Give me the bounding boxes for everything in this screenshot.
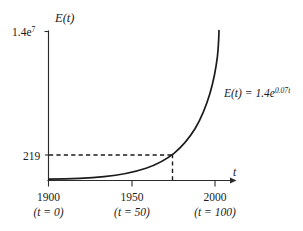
- y-axis-marked-value: 219: [23, 150, 41, 162]
- x-tick-year-2000: 2000: [204, 191, 227, 203]
- curve-equation-text: E(t) = 1.4e0.07t: [223, 86, 291, 101]
- axes-group: [48, 31, 237, 183]
- exponential-curve: [49, 31, 219, 180]
- x-tick-label-1900: 1900 (t = 0): [33, 191, 63, 219]
- x-tick-tvalue-1900: (t = 0): [33, 206, 63, 219]
- exponential-growth-figure: E(t) t 1.4e7 219 1900 (t = 0) 19: [0, 0, 303, 231]
- y-axis-top-value: 1.4e7: [12, 25, 35, 39]
- x-axis-label: t: [233, 166, 237, 178]
- curve-equation-annotation: E(t) = 1.4e0.07t: [223, 86, 291, 101]
- plot-canvas: E(t) t 1.4e7 219 1900 (t = 0) 19: [0, 0, 303, 231]
- y-axis-ticks: [45, 32, 49, 156]
- x-tick-year-1900: 1900: [37, 191, 60, 203]
- x-tick-year-1950: 1950: [121, 191, 144, 203]
- curve-equation-exponent: 0.07t: [275, 86, 291, 95]
- x-tick-label-1950: 1950 (t = 50): [114, 191, 150, 219]
- x-tick-label-2000: 2000 (t = 100): [194, 191, 236, 219]
- y-axis-top-exponent: 7: [31, 25, 35, 34]
- x-axis-ticks: [49, 181, 216, 187]
- exponential-curve-group: [49, 31, 219, 180]
- x-tick-tvalue-1950: (t = 50): [114, 206, 150, 219]
- x-tick-tvalue-2000: (t = 100): [194, 206, 236, 219]
- y-axis-top-value-group: 1.4e7: [12, 25, 35, 39]
- y-axis-label: E(t): [54, 11, 74, 25]
- x-axis-arrow-icon: [230, 178, 237, 184]
